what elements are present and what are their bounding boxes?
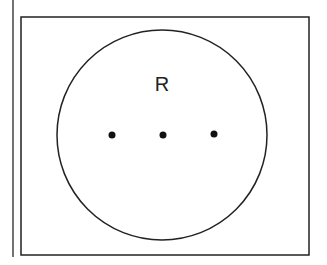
element-point <box>211 131 218 138</box>
venn-diagram: R <box>0 0 327 265</box>
element-point <box>109 132 116 139</box>
element-point <box>160 132 167 139</box>
set-r-label: R <box>155 73 169 95</box>
